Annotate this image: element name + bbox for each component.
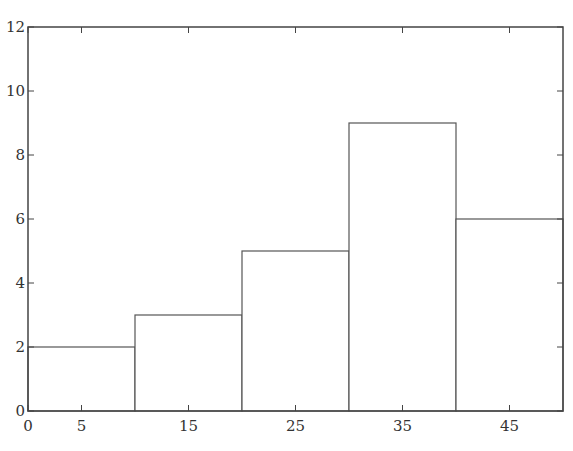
y-tick-label: 12 bbox=[6, 18, 25, 36]
x-tick-label: 35 bbox=[393, 417, 412, 435]
y-tick-label: 4 bbox=[15, 274, 25, 292]
histogram-bar bbox=[456, 219, 563, 411]
x-tick-label: 15 bbox=[179, 417, 198, 435]
histogram-bar bbox=[135, 315, 242, 411]
y-tick-label: 10 bbox=[6, 82, 25, 100]
histogram-bar bbox=[349, 123, 456, 411]
y-tick-label: 8 bbox=[15, 146, 25, 164]
y-tick-label: 2 bbox=[15, 338, 25, 356]
histogram-chart: 0515253545 024681012 bbox=[0, 0, 573, 451]
y-tick-label: 6 bbox=[15, 210, 25, 228]
bars-group bbox=[28, 123, 563, 411]
x-tick-label: 25 bbox=[286, 417, 305, 435]
y-tick-label: 0 bbox=[15, 402, 25, 420]
x-tick-label: 45 bbox=[500, 417, 519, 435]
x-tick-label: 5 bbox=[77, 417, 87, 435]
histogram-bar bbox=[28, 347, 135, 411]
histogram-bar bbox=[242, 251, 349, 411]
